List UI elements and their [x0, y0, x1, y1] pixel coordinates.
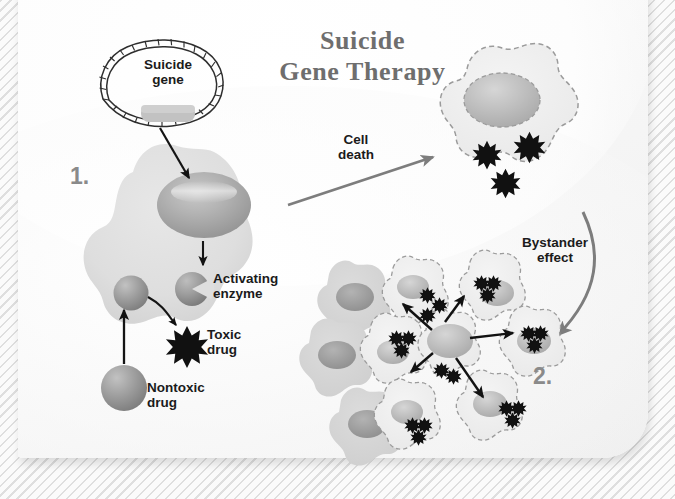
label-nontoxic-drug: Nontoxic drug	[147, 381, 239, 410]
figure-title: Suicide Gene Therapy	[255, 26, 470, 87]
label-toxic-drug: Toxic drug	[207, 328, 277, 357]
bystander-cell-cluster	[299, 250, 565, 466]
step-number-2: 2.	[533, 363, 552, 390]
toxic-drug-starburst	[166, 326, 208, 368]
label-bystander-effect: Bystander effect	[505, 236, 605, 265]
nontoxic-drug-external	[101, 365, 147, 411]
arrow-bystander-effect	[558, 212, 595, 335]
step-number-1: 1.	[70, 163, 89, 190]
diagram-stage: Suicide Gene Therapy Suicide gene Activa…	[0, 0, 675, 499]
arrow-cell-death	[288, 157, 433, 205]
label-cell-death: Cell death	[320, 133, 392, 162]
label-suicide-gene: Suicide gene	[122, 58, 214, 87]
bystander-source-nucleus	[427, 324, 473, 358]
label-activating-enzyme: Activating enzyme	[213, 272, 318, 301]
nontoxic-drug-internal	[114, 276, 149, 311]
